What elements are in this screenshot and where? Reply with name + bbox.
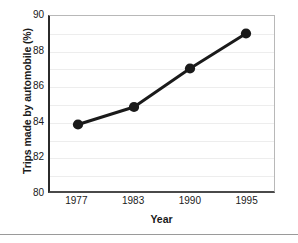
x-axis-title: Year [48, 213, 275, 225]
bottom-divider [0, 234, 298, 235]
x-tick-label: 1995 [222, 196, 272, 206]
y-tick-label: 84 [22, 117, 44, 127]
line-series [50, 16, 274, 191]
y-tick-label: 80 [22, 188, 44, 198]
y-axis-tick-labels: 808284868890 [22, 15, 44, 193]
y-tick-label: 86 [22, 81, 44, 91]
data-point-marker [241, 28, 251, 38]
y-tick-label: 88 [22, 46, 44, 56]
plot-area [48, 15, 275, 193]
data-point-marker [129, 102, 139, 112]
y-tick-label: 90 [22, 10, 44, 20]
y-tick-label: 82 [22, 152, 44, 162]
series-line [78, 34, 246, 125]
data-point-marker [185, 63, 195, 73]
x-tick-label: 1990 [165, 196, 215, 206]
data-point-marker [73, 119, 83, 129]
x-tick-label: 1983 [108, 196, 158, 206]
x-tick-label: 1977 [51, 196, 101, 206]
x-axis-tick-labels: 1977198319901995 [48, 196, 275, 210]
chart-figure: Trips made by automobile (%) 80828486889… [0, 0, 298, 243]
